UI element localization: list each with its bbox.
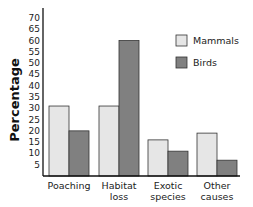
x-category-label: species <box>150 191 186 202</box>
legend: MammalsBirds <box>176 35 239 68</box>
y-tick-label: 45 <box>29 69 40 79</box>
y-tick-label: 20 <box>29 126 41 136</box>
y-tick-label: 60 <box>29 36 41 46</box>
y-axis-title: Percentage <box>7 58 22 142</box>
bar-birds <box>119 41 139 176</box>
bar-birds <box>217 160 237 176</box>
y-tick-label: 25 <box>29 115 40 125</box>
x-axis-categories: PoachingHabitatlossExoticspeciesOthercau… <box>48 180 234 202</box>
legend-swatch-mammals <box>176 35 187 46</box>
bar-mammals <box>99 106 119 176</box>
y-tick-label: 50 <box>29 58 41 68</box>
bar-birds <box>168 151 188 176</box>
bar-mammals <box>197 133 217 176</box>
legend-label-mammals: Mammals <box>193 35 239 46</box>
legend-swatch-birds <box>176 57 187 68</box>
y-tick-label: 35 <box>29 92 40 102</box>
bar-mammals <box>148 140 168 176</box>
y-axis-ticks: 510152025303540455055606570 <box>29 13 41 170</box>
y-axis-label: Percentage <box>7 58 22 142</box>
x-category-label: Exotic <box>154 180 183 191</box>
y-tick-label: 55 <box>29 47 40 57</box>
y-tick-label: 10 <box>29 148 41 158</box>
y-tick-label: 40 <box>29 81 41 91</box>
x-category-label: Habitat <box>102 180 137 191</box>
x-category-label: loss <box>110 191 128 202</box>
y-tick-label: 30 <box>29 103 41 113</box>
y-tick-label: 15 <box>29 137 40 147</box>
x-category-label: Poaching <box>48 180 91 191</box>
bar-birds <box>69 131 89 176</box>
bar-mammals <box>49 106 69 176</box>
y-tick-label: 65 <box>29 24 40 34</box>
bar-chart: Percentage 510152025303540455055606570 P… <box>0 0 253 207</box>
legend-label-birds: Birds <box>193 57 217 68</box>
x-category-label: causes <box>201 191 234 202</box>
y-tick-label: 5 <box>34 160 40 170</box>
x-category-label: Other <box>204 180 231 191</box>
y-tick-label: 70 <box>29 13 41 23</box>
